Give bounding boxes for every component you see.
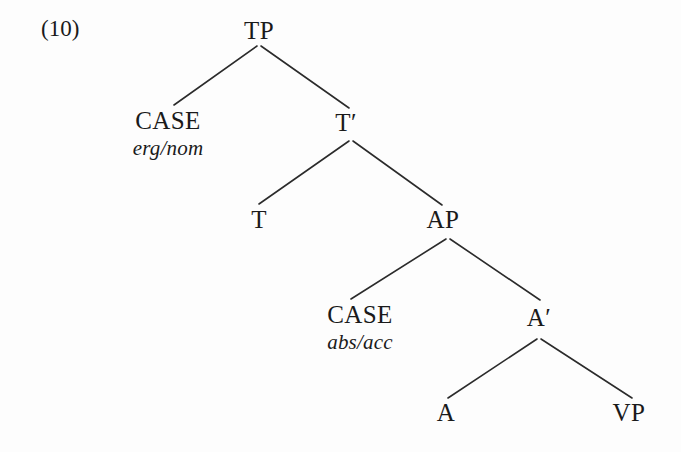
tree-node-label-case1: CASE <box>133 108 204 133</box>
tree-node-label-ap: AP <box>427 207 460 232</box>
tree-node-label-abar: A′ <box>527 305 551 330</box>
syntax-tree-figure: (10) TPCASEerg/nomT′TAPCASEabs/accA′AVP <box>0 0 681 452</box>
tree-node-label-a: A <box>437 400 455 425</box>
tree-branch-tbar-t <box>259 141 349 204</box>
tree-node-a: A <box>437 400 455 425</box>
tree-node-label-tbar: T′ <box>335 110 357 135</box>
tree-branch-lines <box>0 0 681 452</box>
tree-node-vp: VP <box>613 400 646 425</box>
tree-node-t: T <box>251 207 267 232</box>
tree-branch-tbar-ap <box>353 141 442 205</box>
tree-node-label-t: T <box>251 207 267 232</box>
tree-node-label-vp: VP <box>613 400 646 425</box>
tree-branch-ap-case2 <box>351 239 446 299</box>
tree-node-case1: CASEerg/nom <box>133 108 204 159</box>
tree-branch-abar-a <box>448 339 537 398</box>
tree-node-case2: CASEabs/acc <box>327 302 393 353</box>
tree-node-abar: A′ <box>527 305 551 330</box>
tree-branch-ap-abar <box>450 239 540 300</box>
tree-node-label-tp: TP <box>244 18 274 43</box>
tree-branch-tp-case1 <box>174 46 257 105</box>
tree-node-gloss-case1: erg/nom <box>133 138 204 159</box>
tree-node-tp: TP <box>244 18 274 43</box>
tree-node-gloss-case2: abs/acc <box>327 332 393 353</box>
tree-branch-abar-vp <box>541 339 632 398</box>
tree-node-label-case2: CASE <box>327 302 393 327</box>
tree-branch-tp-tbar <box>261 46 349 108</box>
tree-node-ap: AP <box>427 207 460 232</box>
tree-node-tbar: T′ <box>335 110 357 135</box>
